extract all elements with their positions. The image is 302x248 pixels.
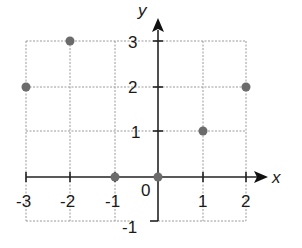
x-tick-label: -1 [105,192,120,211]
x-tick-label: 1 [198,192,207,211]
y-tick-label: 2 [128,78,137,97]
x-tick-label: -3 [16,192,31,211]
data-point [154,173,163,182]
data-point [111,173,120,182]
y-axis [150,30,163,221]
y-axis-label: y [137,1,148,20]
y-tick-label: 3 [128,33,137,52]
x-tick-label: -2 [60,192,75,211]
y-axis-arrow-icon [152,18,164,32]
data-point [199,127,208,136]
data-point [242,83,251,92]
data-point [66,37,75,46]
origin-label: 0 [141,181,150,200]
data-point [22,83,31,92]
y-tick-label: 1 [131,123,140,142]
data-points [22,37,251,182]
x-tick-label: 2 [241,192,250,211]
coordinate-plane-chart: x y -3 -2 -1 0 1 2 3 2 1 -1 [0,0,302,248]
x-axis-label: x [271,168,281,187]
y-tick-label: -1 [122,218,137,237]
